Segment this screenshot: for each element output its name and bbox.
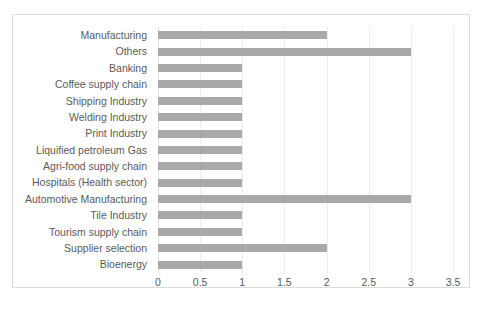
y-axis-label: Agri-food supply chain: [43, 161, 147, 172]
x-axis-tick-1.5: 1.5: [277, 277, 292, 288]
bar[interactable]: [158, 97, 242, 105]
x-axis-tick-3.5: 3.5: [446, 277, 461, 288]
y-axis-label: Coffee supply chain: [55, 79, 147, 90]
bar-series: [158, 27, 453, 273]
x-axis-tick-1: 1: [239, 277, 245, 288]
bar-row: [158, 207, 453, 223]
bar-row: [158, 224, 453, 240]
bar-row: [158, 191, 453, 207]
x-axis-tick-3: 3: [408, 277, 414, 288]
y-axis-label: Bioenergy: [100, 259, 147, 270]
y-axis-label-row: Bioenergy: [13, 256, 153, 272]
bar-row: [158, 76, 453, 92]
bar-row: [158, 158, 453, 174]
y-axis-category-labels: ManufacturingOthersBankingCoffee supply …: [13, 27, 153, 273]
y-axis-label-row: Shipping Industry: [13, 93, 153, 109]
y-axis-label: Others: [115, 46, 147, 57]
x-axis-tick-2.5: 2.5: [361, 277, 376, 288]
bar-row: [158, 142, 453, 158]
y-axis-label: Banking: [109, 63, 147, 74]
bar[interactable]: [158, 80, 242, 88]
y-axis-label-row: Others: [13, 43, 153, 59]
y-axis-label-row: Hospitals (Health sector): [13, 175, 153, 191]
bar-row: [158, 256, 453, 272]
y-axis-label: Tourism supply chain: [49, 227, 147, 238]
y-axis-label-row: Supplier selection: [13, 240, 153, 256]
bar[interactable]: [158, 146, 242, 154]
bar-row: [158, 43, 453, 59]
bar[interactable]: [158, 130, 242, 138]
bar[interactable]: [158, 31, 327, 39]
y-axis-label-row: Coffee supply chain: [13, 76, 153, 92]
x-axis-tick-labels: 00.511.522.533.5: [158, 277, 453, 291]
y-axis-label-row: Welding Industry: [13, 109, 153, 125]
bar[interactable]: [158, 195, 411, 203]
y-axis-label: Liquified petroleum Gas: [36, 145, 147, 156]
bar[interactable]: [158, 211, 242, 219]
bar[interactable]: [158, 162, 242, 170]
bar-row: [158, 27, 453, 43]
y-axis-label-row: Banking: [13, 60, 153, 76]
y-axis-label-row: Agri-food supply chain: [13, 158, 153, 174]
y-axis-label: Tile Industry: [90, 210, 147, 221]
bar[interactable]: [158, 113, 242, 121]
bar[interactable]: [158, 179, 242, 187]
gridline-3.5: [453, 27, 454, 273]
chart-container: ManufacturingOthersBankingCoffee supply …: [12, 14, 470, 288]
bar-row: [158, 175, 453, 191]
y-axis-label-row: Tile Industry: [13, 207, 153, 223]
bar[interactable]: [158, 64, 242, 72]
y-axis-label: Shipping Industry: [66, 96, 147, 107]
x-axis-tick-0.5: 0.5: [193, 277, 208, 288]
bar-row: [158, 240, 453, 256]
y-axis-label-row: Liquified petroleum Gas: [13, 142, 153, 158]
y-axis-label-row: Tourism supply chain: [13, 224, 153, 240]
bar[interactable]: [158, 261, 242, 269]
bar-row: [158, 93, 453, 109]
bar-row: [158, 109, 453, 125]
bar[interactable]: [158, 244, 327, 252]
x-axis-tick-0: 0: [155, 277, 161, 288]
y-axis-label: Hospitals (Health sector): [32, 177, 147, 188]
x-axis-tick-2: 2: [324, 277, 330, 288]
y-axis-label-row: Manufacturing: [13, 27, 153, 43]
plot-area: [158, 27, 453, 273]
y-axis-label: Manufacturing: [80, 30, 147, 41]
bar[interactable]: [158, 228, 242, 236]
bar[interactable]: [158, 48, 411, 56]
y-axis-label: Print Industry: [85, 128, 147, 139]
y-axis-label-row: Print Industry: [13, 125, 153, 141]
y-axis-label: Automotive Manufacturing: [25, 194, 147, 205]
y-axis-label: Welding Industry: [69, 112, 147, 123]
bar-row: [158, 125, 453, 141]
y-axis-label-row: Automotive Manufacturing: [13, 191, 153, 207]
bar-row: [158, 60, 453, 76]
y-axis-label: Supplier selection: [64, 243, 147, 254]
